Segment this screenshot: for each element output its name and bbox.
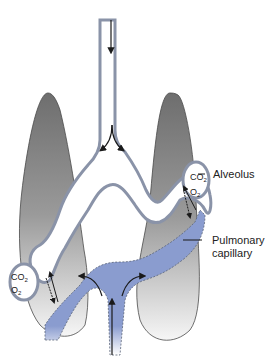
pulmonary-capillary-label-line2: capillary [212, 247, 253, 259]
gas-exchange-diagram: CO2 O2 CO2 O2 Alveolus Pulmonary capilla… [0, 0, 275, 361]
alveolus-label: Alveolus [213, 168, 255, 180]
pulmonary-capillary-label-line1: Pulmonary [212, 234, 265, 246]
